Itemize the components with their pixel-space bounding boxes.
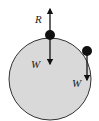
label-reaction-top: R <box>34 13 42 25</box>
free-body-diagram: R W W <box>0 0 99 121</box>
ball-side <box>82 46 92 56</box>
label-weight-top: W <box>31 58 41 70</box>
ball-top <box>45 30 55 40</box>
label-weight-side: W <box>72 77 82 89</box>
